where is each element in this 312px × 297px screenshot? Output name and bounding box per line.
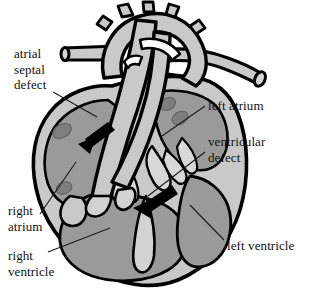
label-atrial-septal-defect: atrial septal defect: [14, 46, 46, 93]
label-right-atrium: right atrium: [8, 203, 43, 234]
arch-stub-left: [97, 16, 112, 30]
brachiocephalic-stub: [118, 4, 133, 17]
label-right-ventricle: right ventricle: [8, 248, 54, 279]
left-vessel-opening: [61, 48, 69, 61]
label-left-atrium: left atrium: [208, 98, 264, 114]
subclavian-stub: [166, 4, 179, 17]
heart-diagram-figure: atrial septal defect left atrium ventric…: [0, 0, 312, 297]
carotid-stub: [143, 2, 154, 12]
atrium-wall-notch: [60, 196, 86, 226]
label-left-ventricle: left ventricle: [227, 238, 294, 254]
label-ventricular-defect: ventricular defect: [208, 134, 265, 165]
